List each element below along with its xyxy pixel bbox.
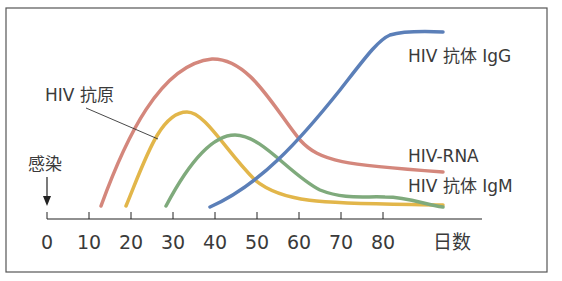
- tick-label: 0: [41, 231, 53, 253]
- label-hiv-antigen: HIV 抗原: [45, 85, 114, 105]
- tick-label: 10: [77, 231, 101, 253]
- series-hiv-rna: [101, 59, 443, 206]
- label-hiv-rna: HIV-RNA: [408, 146, 479, 166]
- chart-canvas: 0 10 20 30 40 50 60 70 80 日数 感染 HIV 抗原 H…: [0, 0, 562, 281]
- tick-label: 40: [203, 231, 227, 253]
- arrow-down-icon: [43, 196, 51, 206]
- x-axis-ticks: [47, 212, 383, 219]
- x-axis-label: 日数: [433, 231, 471, 253]
- x-tick-labels: 0 10 20 30 40 50 60 70 80: [41, 231, 395, 253]
- label-hiv-igm: HIV 抗体 IgM: [408, 176, 513, 196]
- tick-label: 70: [329, 231, 353, 253]
- infection-label: 感染: [28, 154, 62, 174]
- tick-label: 80: [371, 231, 395, 253]
- tick-label: 20: [119, 231, 143, 253]
- label-hiv-igg: HIV 抗体 IgG: [408, 46, 511, 66]
- tick-label: 30: [161, 231, 185, 253]
- tick-label: 50: [245, 231, 269, 253]
- antigen-leader-line: [86, 108, 158, 139]
- tick-label: 60: [287, 231, 311, 253]
